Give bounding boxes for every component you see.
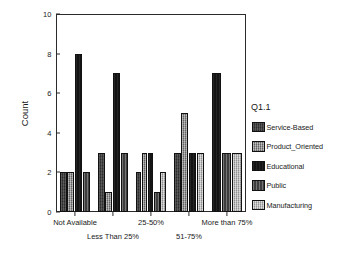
legend-item-label: Manufacturing <box>267 201 313 210</box>
y-axis-title: Count <box>19 84 30 144</box>
legend-swatch <box>252 141 265 152</box>
x-tick-label: More than 75% <box>202 218 253 227</box>
legend-swatch <box>252 122 265 133</box>
bar <box>98 153 105 212</box>
legend-item-label: Educational <box>267 162 305 171</box>
legend-item: Service-Based <box>252 121 344 133</box>
bar <box>148 153 153 212</box>
x-tick-label: Not Available <box>53 218 97 227</box>
legend-item: Public <box>252 180 344 192</box>
legend: Q1.1 Service-BasedProduct_OrientedEducat… <box>252 102 344 219</box>
bar <box>113 73 120 212</box>
bar-chart: Count 0246810 Not AvailableLess Than 25%… <box>0 0 344 266</box>
bar <box>154 192 159 212</box>
bar <box>197 153 204 212</box>
legend-item-label: Product_Oriented <box>267 142 323 151</box>
x-tick-mark <box>74 212 75 216</box>
bar <box>174 153 181 212</box>
legend-item: Product_Oriented <box>252 141 344 153</box>
bar <box>67 172 74 212</box>
x-tick-label: 51-75% <box>176 232 202 241</box>
bar <box>136 172 141 212</box>
bar <box>121 153 128 212</box>
bar <box>222 153 232 212</box>
bar <box>181 113 188 212</box>
y-tick-label: 8 <box>47 49 56 58</box>
bar <box>212 73 222 212</box>
plot-area: 0246810 <box>56 14 246 212</box>
bar <box>75 54 82 212</box>
legend-swatch <box>252 180 265 191</box>
bar-series-container <box>56 14 246 212</box>
y-tick-label: 0 <box>47 208 56 217</box>
legend-swatch <box>252 161 265 172</box>
bar <box>60 172 67 212</box>
bar <box>83 172 90 212</box>
x-tick-label: 25-50% <box>138 218 164 227</box>
legend-item-label: Service-Based <box>267 123 314 132</box>
y-tick-label: 10 <box>43 10 56 19</box>
y-tick-label: 2 <box>47 168 56 177</box>
legend-swatch <box>252 200 265 211</box>
x-tick-mark <box>112 212 113 216</box>
legend-title: Q1.1 <box>251 102 344 112</box>
x-tick-mark <box>226 212 227 216</box>
bar <box>232 153 242 212</box>
bar <box>189 153 196 212</box>
x-tick-mark <box>150 212 151 216</box>
bar <box>142 153 147 212</box>
bar <box>160 172 165 212</box>
x-tick-mark <box>188 212 189 216</box>
legend-item-label: Public <box>267 181 287 190</box>
legend-item: Manufacturing <box>252 199 344 211</box>
legend-item: Educational <box>252 160 344 172</box>
y-tick-label: 6 <box>47 89 56 98</box>
y-tick-label: 4 <box>47 128 56 137</box>
x-tick-label: Less Than 25% <box>87 232 139 241</box>
bar <box>105 192 112 212</box>
